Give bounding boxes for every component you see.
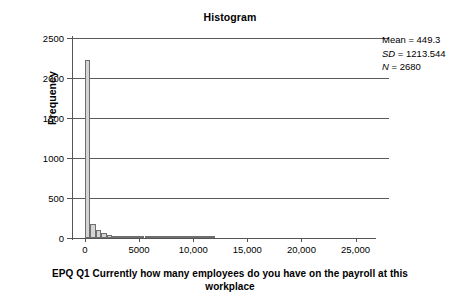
x-axis-tick (85, 238, 86, 242)
x-axis-tick-label: 15,000 (233, 244, 262, 255)
x-axis-caption: EPQ Q1 Currently how many employees do y… (40, 267, 420, 293)
x-axis-tick-label: 25,000 (341, 244, 370, 255)
stat-n: N = 2680 (382, 60, 446, 74)
statistics-annotation: Mean = 449.3 SD = 1213.544 N = 2680 (382, 33, 446, 74)
y-axis-tick-label: 500 (48, 193, 64, 204)
y-axis-tick-label: 0 (59, 233, 64, 244)
y-axis-label-container: Frequency (0, 0, 40, 304)
stat-sd-symbol: SD (382, 48, 395, 59)
x-axis-tick (139, 238, 140, 242)
stat-sd-value: = 1213.544 (395, 48, 445, 59)
histogram-bars-group (72, 38, 375, 238)
x-axis-ticks-group: 0500010,00015,00020,00025,000 (72, 238, 375, 262)
x-axis-tick (193, 238, 194, 242)
stat-mean: Mean = 449.3 (382, 33, 446, 47)
x-axis-tick (247, 238, 248, 242)
plot-area: 05001000150020002500 (72, 38, 375, 238)
stat-sd: SD = 1213.544 (382, 47, 446, 61)
y-axis-label: Frequency (46, 38, 58, 158)
x-axis-tick-label: 0 (82, 244, 87, 255)
x-axis-tick-label: 10,000 (179, 244, 208, 255)
y-axis-tick-label: 1500 (43, 113, 64, 124)
y-axis-tick-label: 2500 (43, 33, 64, 44)
x-axis-tick-label: 5000 (129, 244, 150, 255)
stat-n-value: = 2680 (389, 61, 421, 72)
x-axis-tick (356, 238, 357, 242)
x-axis-tick-label: 20,000 (287, 244, 316, 255)
stat-n-symbol: N (382, 61, 389, 72)
x-axis-tick (301, 238, 302, 242)
histogram-bar (85, 60, 90, 238)
histogram-figure: Histogram Frequency 05001000150020002500… (0, 0, 460, 304)
y-axis-tick-label: 1000 (43, 153, 64, 164)
y-axis-tick-label: 2000 (43, 73, 64, 84)
chart-title: Histogram (0, 11, 460, 23)
